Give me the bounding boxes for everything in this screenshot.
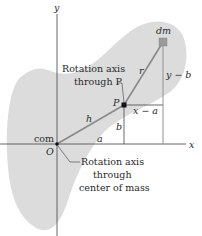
com-label: com	[34, 133, 54, 144]
mass-element-label: dm	[156, 25, 171, 36]
x-minus-a-label: x − a	[133, 105, 158, 116]
pivot-axis-caption-line1: Rotation axis	[62, 63, 125, 74]
origin-label: O	[46, 146, 54, 157]
pivot-axis-caption-line2: through P	[74, 76, 123, 87]
pivot-label: P	[112, 97, 120, 108]
mass-element-dm	[159, 38, 167, 46]
b-label: b	[116, 121, 122, 132]
a-label: a	[97, 133, 103, 144]
com-axis-caption-line3: center of mass	[79, 182, 150, 193]
com-axis-caption-line2: through	[93, 169, 132, 180]
parallel-axis-diagram: y x O com P dm h r a b x − a y − b Rotat…	[0, 0, 202, 236]
com-axis-caption-line1: Rotation axis	[81, 156, 144, 167]
pivot-point-P	[122, 103, 127, 108]
y-minus-b-label: y − b	[165, 69, 191, 80]
y-axis-label: y	[53, 2, 60, 13]
x-axis-label: x	[189, 139, 195, 150]
rigid-body-shape	[7, 21, 187, 230]
h-label: h	[86, 113, 92, 124]
origin-point-O	[55, 142, 59, 146]
